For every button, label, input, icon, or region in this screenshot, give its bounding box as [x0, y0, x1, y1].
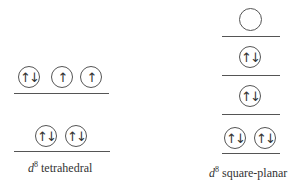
square-planar-label: d8 square-planar: [209, 165, 287, 181]
orbital-paired: ↑↓: [254, 127, 276, 149]
energy-level-2: [222, 114, 280, 115]
orbital-paired: ↑↓: [239, 46, 261, 68]
energy-level-lower: [14, 151, 110, 152]
orbital-paired: ↑↓: [18, 66, 40, 88]
orbital-paired: ↑↓: [239, 85, 261, 107]
orbital-single: ↑: [51, 66, 73, 88]
energy-level-1: [222, 153, 280, 154]
tetrahedral-label: d8 tetrahedral: [28, 160, 92, 176]
orbital-empty: [239, 8, 262, 31]
orbital-paired: ↑↓: [35, 125, 57, 147]
energy-level-3: [222, 75, 280, 76]
energy-level-upper: [14, 93, 109, 94]
orbital-single: ↑: [80, 66, 102, 88]
orbital-paired: ↑↓: [65, 125, 87, 147]
orbital-paired: ↑↓: [224, 127, 246, 149]
energy-level-4: [222, 36, 280, 37]
